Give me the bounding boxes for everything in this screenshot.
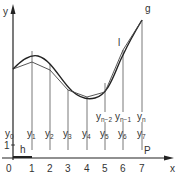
svg-text:y7: y7 — [137, 128, 146, 140]
svg-text:y5: y5 — [100, 128, 109, 140]
x-axis-arrow-icon — [164, 156, 174, 161]
point-label-p: P — [144, 145, 151, 156]
step-label-h: h — [20, 144, 26, 155]
svg-text:7: 7 — [139, 163, 145, 174]
svg-text:y1: y1 — [27, 128, 36, 140]
svg-text:5: 5 — [102, 163, 108, 174]
y-unit-label: 1 — [4, 140, 10, 151]
svg-text:y3: y3 — [63, 128, 72, 140]
curve-label-g: g — [145, 3, 151, 14]
x-tick-labels: 1 2 3 4 5 6 7 — [29, 163, 145, 174]
origin-label: 0 — [6, 163, 12, 174]
svg-text:1: 1 — [29, 163, 35, 174]
trapezoid-rule-diagram: y x 0 1 h g l P 1 2 3 4 5 6 7 y0 y1 y2 y… — [0, 0, 180, 178]
ordinate-labels-upper: yn−2 yn−1 yn — [94, 111, 148, 123]
svg-text:3: 3 — [65, 163, 71, 174]
ordinate-labels-lower: y0 y1 y2 y3 y4 y5 y6 y7 — [5, 128, 146, 140]
y-axis-label: y — [3, 6, 8, 17]
svg-text:y4: y4 — [82, 128, 91, 140]
svg-text:y6: y6 — [118, 128, 127, 140]
polygon-label-l: l — [118, 37, 120, 48]
x-axis-label: x — [170, 163, 175, 174]
svg-text:6: 6 — [120, 163, 126, 174]
svg-text:2: 2 — [47, 163, 53, 174]
svg-text:y2: y2 — [45, 128, 54, 140]
svg-text:4: 4 — [84, 163, 90, 174]
y-axis-arrow-icon — [11, 4, 16, 14]
